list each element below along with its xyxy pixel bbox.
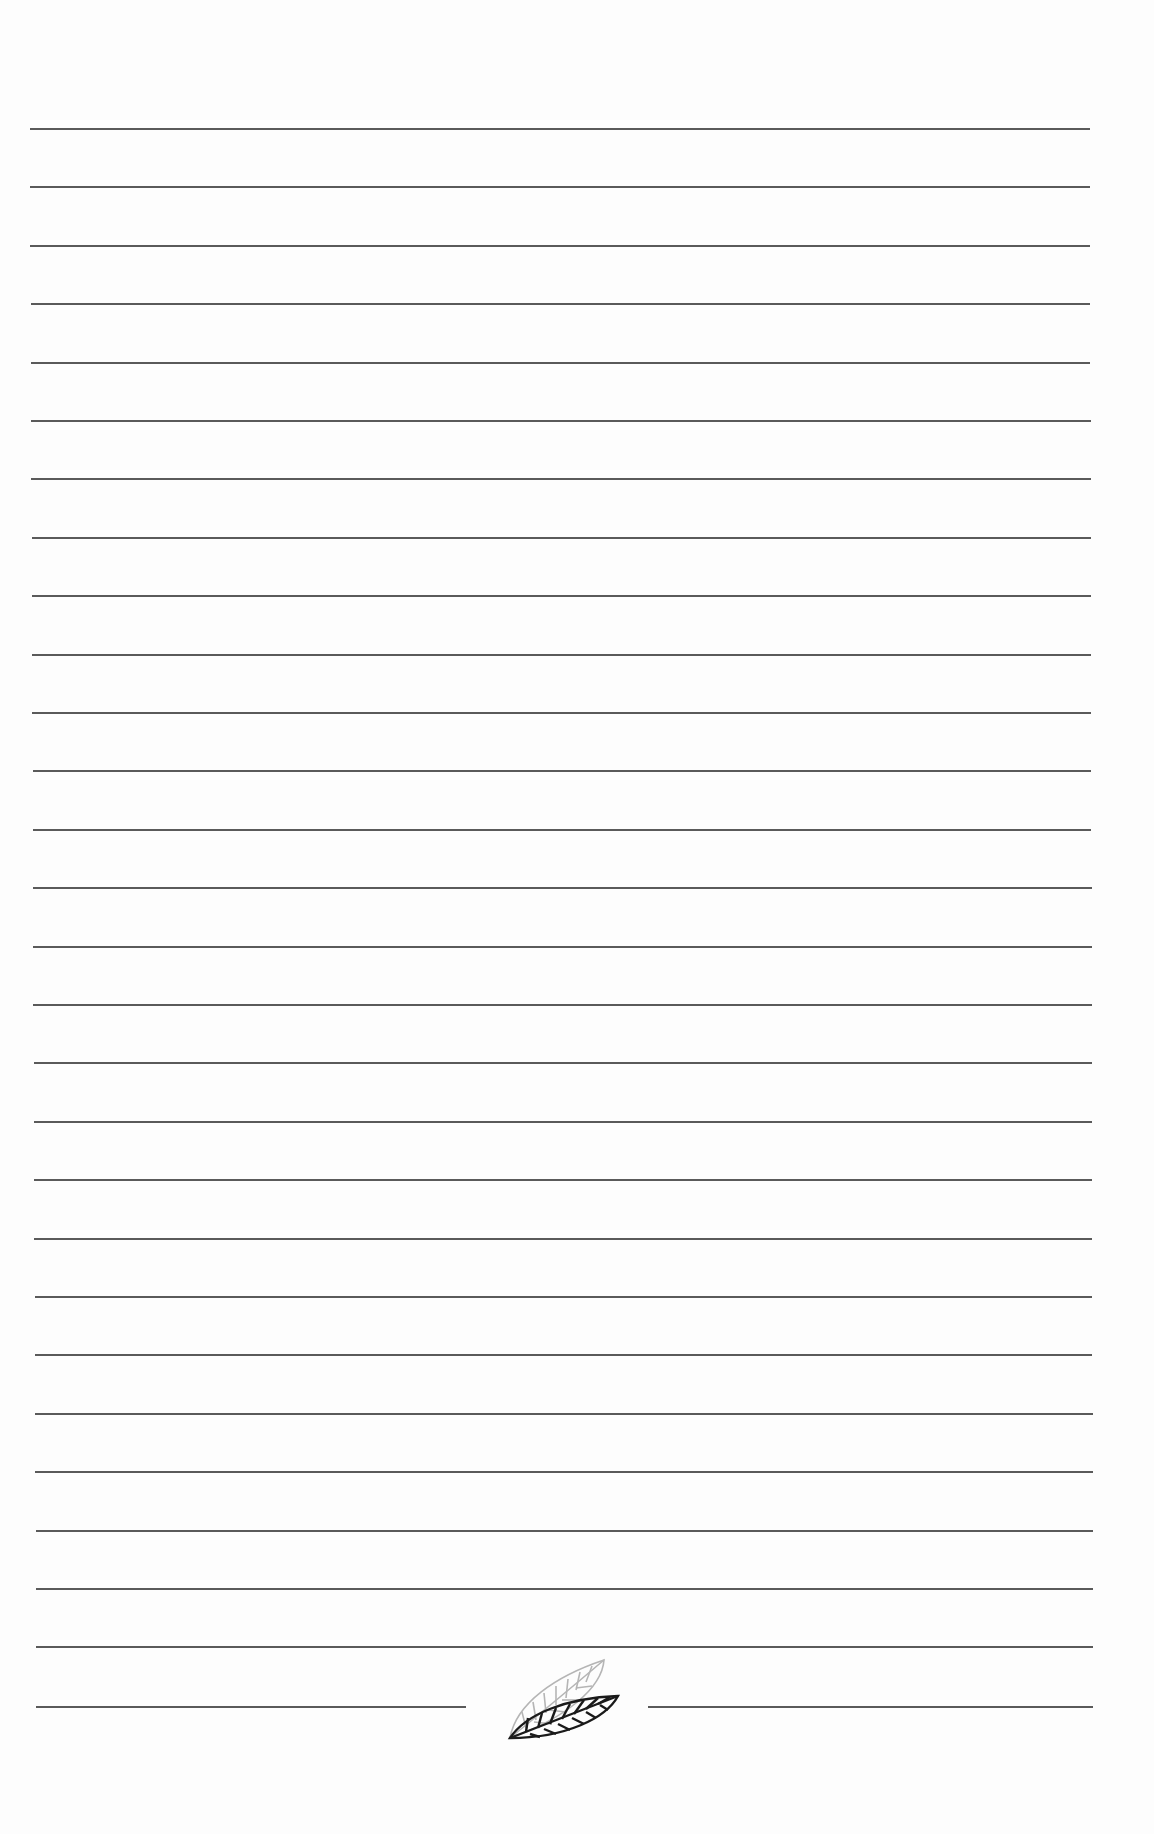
ruled-line [35, 1471, 1092, 1473]
ruled-line [36, 1530, 1093, 1532]
footer-line-right [648, 1706, 1093, 1708]
ruled-line [35, 1296, 1093, 1298]
footer-line-left [36, 1706, 466, 1708]
ruled-line [34, 1062, 1092, 1064]
ruled-line [35, 1413, 1092, 1415]
ruled-line [30, 128, 1090, 130]
leaf-pair-icon [506, 1658, 624, 1740]
ruled-line [32, 595, 1091, 597]
ruled-line [32, 712, 1091, 714]
ruled-line [33, 946, 1091, 948]
ruled-line [34, 1238, 1092, 1240]
ruled-line [33, 887, 1092, 889]
ruled-line [36, 1646, 1093, 1648]
ruled-line [33, 829, 1092, 831]
ruled-line [30, 245, 1090, 247]
ruled-line [31, 478, 1090, 480]
ruled-line [35, 1354, 1093, 1356]
ruled-line [36, 1588, 1093, 1590]
notebook-page [0, 0, 1154, 1834]
ruled-line [31, 362, 1091, 364]
ruled-line [31, 420, 1090, 422]
ruled-line [32, 654, 1091, 656]
ruled-line [30, 186, 1090, 188]
ruled-line [34, 1179, 1092, 1181]
ruled-line [33, 770, 1092, 772]
front-leaf-icon [510, 1696, 618, 1738]
ruled-line [33, 1004, 1091, 1006]
ruled-line [34, 1121, 1092, 1123]
ruled-line [31, 303, 1091, 305]
ruled-line [32, 537, 1091, 539]
